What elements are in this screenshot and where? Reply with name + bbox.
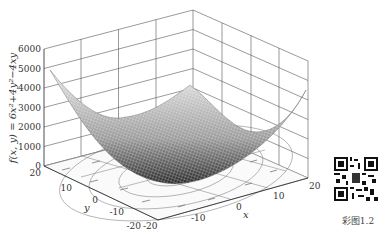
svg-text:4000: 4000 (18, 83, 41, 93)
svg-text:-10: -10 (110, 207, 125, 217)
svg-text:-20: -20 (143, 221, 158, 231)
svg-text:2000: 2000 (18, 122, 41, 132)
surface-plot: 6000 5000 4000 3000 2000 1000 0 f(x, y) … (0, 0, 390, 238)
svg-text:-10: -10 (191, 213, 206, 223)
svg-text:-20: -20 (127, 221, 142, 231)
svg-text:3000: 3000 (18, 103, 41, 113)
svg-text:5000: 5000 (18, 64, 41, 74)
x-axis-label: x (243, 209, 249, 220)
svg-text:10: 10 (61, 183, 73, 193)
figure-caption: 彩图1.2 (328, 214, 388, 227)
y-axis-label: y (83, 202, 90, 213)
z-axis-ticks: 6000 5000 4000 3000 2000 1000 0 (18, 44, 41, 171)
svg-text:20: 20 (30, 168, 42, 178)
svg-text:1000: 1000 (18, 142, 41, 152)
qr-code[interactable] (334, 157, 378, 201)
svg-text:0: 0 (92, 195, 98, 205)
svg-text:10: 10 (273, 191, 285, 201)
svg-text:6000: 6000 (18, 44, 41, 54)
svg-text:0: 0 (236, 202, 242, 212)
z-axis-label: f(x, y) = 6x²+4y²−4xy (7, 52, 18, 164)
svg-text:20: 20 (309, 181, 321, 191)
